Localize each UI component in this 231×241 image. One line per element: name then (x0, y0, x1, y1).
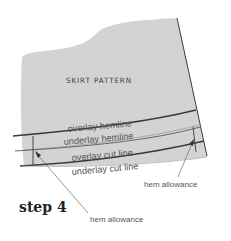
label-hem-allowance-right: hem allowance (144, 180, 198, 189)
pattern-title: SKIRT PATTERN (66, 76, 132, 85)
pattern-piece (21, 18, 207, 166)
label-hem-allowance-bottom: hem allowance (90, 215, 144, 224)
step-label: step 4 (19, 199, 67, 215)
